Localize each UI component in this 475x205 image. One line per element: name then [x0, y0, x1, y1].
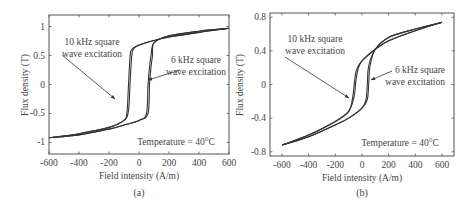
x-tick-label: -200 — [327, 160, 345, 170]
annotation-10khz-line1-b: 10 kHz square — [288, 34, 343, 44]
annotation-6khz-line2-a: wave excitation — [166, 67, 226, 77]
x-tick-label: -200 — [100, 158, 118, 168]
y-tick-label: -0.5 — [30, 108, 45, 118]
panel-label-b: (b) — [356, 187, 368, 199]
y-tick-label: 0 — [40, 80, 45, 90]
y-tick-label: 0 — [261, 80, 266, 90]
x-tick-label: 400 — [408, 160, 423, 170]
panel-a: -600-400-2000200400600-1-0.500.51 10 kHz… — [20, 15, 236, 199]
y-tick-label: 0.8 — [254, 12, 266, 22]
temperature-label-a: Temperature = 40°C — [137, 137, 215, 147]
y-axis-label-b: Flux density (T) — [235, 54, 246, 116]
x-tick-label: -400 — [70, 158, 88, 168]
x-tick-label: 200 — [382, 160, 397, 170]
annotation-10khz-line1-a: 10 kHz square — [65, 37, 120, 47]
y-tick-label: -1 — [37, 137, 45, 147]
y-tick-label: 1 — [40, 22, 45, 32]
x-tick-label: -400 — [300, 160, 318, 170]
annotation-10khz-line2-a: wave excitation — [62, 49, 122, 59]
x-tick-label: 600 — [222, 158, 237, 168]
annotation-10khz-line2-b: wave excitation — [285, 46, 345, 56]
x-tick-label: 400 — [192, 158, 207, 168]
annotation-6khz-line2-b: wave excitation — [385, 77, 445, 87]
annotation-6khz-line1-a: 6 kHz square — [171, 55, 221, 65]
y-tick-label: -0.4 — [251, 113, 266, 123]
x-axis-label-b: Field intensity (A/m) — [322, 173, 402, 184]
panel-label-a: (a) — [133, 187, 144, 199]
temperature-label-b: Temperature = 40°C — [361, 138, 439, 148]
x-tick-label: 0 — [360, 160, 365, 170]
x-tick-label: -600 — [40, 158, 58, 168]
x-tick-label: -600 — [273, 160, 291, 170]
plot-frame-a — [49, 15, 229, 154]
figure: -600-400-2000200400600-1-0.500.51 10 kHz… — [0, 0, 475, 205]
y-tick-label: 0.4 — [254, 46, 266, 56]
y-tick-label: 0.5 — [33, 51, 45, 61]
panel-b: -600-400-2000200400600-0.8-0.400.40.8 10… — [235, 12, 454, 199]
x-tick-label: 0 — [137, 158, 142, 168]
x-tick-label: 200 — [162, 158, 177, 168]
y-axis-label-a: Flux density (T) — [20, 54, 31, 116]
arrowhead-icon — [345, 94, 349, 98]
x-axis-label-a: Field intensity (A/m) — [99, 171, 179, 182]
annotation-6khz-line1-b: 6 kHz square — [395, 65, 445, 75]
annotation-arrow — [285, 57, 349, 98]
y-tick-label: -0.8 — [251, 147, 266, 157]
x-tick-label: 600 — [435, 160, 450, 170]
annotation-arrow — [62, 55, 115, 99]
